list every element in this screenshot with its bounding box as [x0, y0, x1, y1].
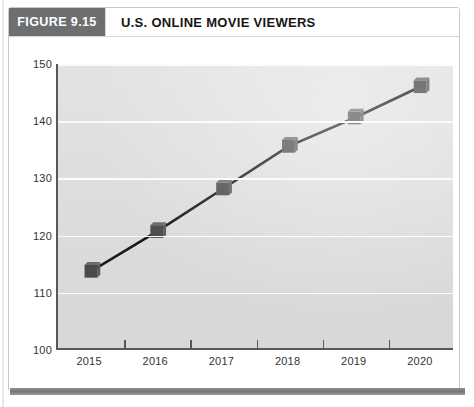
x-axis-tick-label: 2015	[76, 355, 101, 367]
figure-title: U.S. ONLINE MOVIE VIEWERS	[105, 8, 459, 36]
gridline	[58, 178, 453, 180]
y-axis-tick-label: 110	[12, 287, 52, 299]
figure-card: FIGURE 9.15 U.S. ONLINE MOVIE VIEWERS 10…	[8, 7, 460, 392]
x-axis-tick-mark	[257, 340, 259, 348]
y-axis-tick-label: 140	[12, 115, 52, 127]
y-axis-tick-labels: 100110120130140150	[9, 64, 52, 350]
gridline	[58, 236, 453, 238]
x-axis-tick-label: 2018	[275, 355, 300, 367]
figure-number-badge: FIGURE 9.15	[9, 8, 105, 36]
plot-area	[56, 64, 453, 350]
gridline	[58, 64, 453, 66]
x-axis-tick-label: 2019	[341, 355, 366, 367]
y-axis-tick-label: 100	[12, 344, 52, 356]
chart-region: 100110120130140150 201520162017201820192…	[9, 37, 459, 391]
x-axis-tick-labels: 201520162017201820192020	[56, 355, 453, 377]
line-series	[58, 64, 453, 348]
data-point-marker	[85, 262, 101, 278]
data-point-marker	[282, 137, 298, 153]
y-axis-tick-label: 130	[12, 172, 52, 184]
x-axis-tick-mark	[389, 340, 391, 348]
data-point-marker	[414, 77, 430, 93]
x-axis-tick-label: 2017	[209, 355, 234, 367]
y-axis-tick-label: 120	[12, 230, 52, 242]
gridline	[58, 293, 453, 295]
gridline	[58, 121, 453, 123]
data-point-marker	[216, 180, 232, 196]
x-axis-tick-label: 2020	[407, 355, 432, 367]
page-left-edge	[2, 0, 4, 407]
y-axis-tick-label: 150	[12, 58, 52, 70]
figure-header: FIGURE 9.15 U.S. ONLINE MOVIE VIEWERS	[9, 8, 459, 37]
x-axis-tick-label: 2016	[143, 355, 168, 367]
x-axis-tick-mark	[323, 340, 325, 348]
footer-rule	[10, 388, 465, 395]
x-axis-tick-mark	[124, 340, 126, 348]
x-axis-tick-mark	[190, 340, 192, 348]
